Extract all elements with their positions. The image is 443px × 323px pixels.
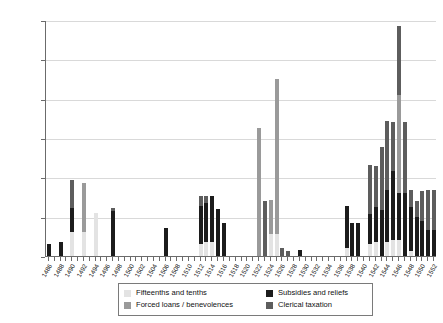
legend-label: Clerical taxation: [278, 301, 332, 309]
bar-segment: [94, 213, 98, 256]
bar-segment: [374, 166, 378, 208]
bar-segment: [82, 183, 86, 233]
bar-column: [397, 26, 401, 256]
bar-segment: [426, 190, 430, 230]
bar-column: [374, 166, 378, 256]
bar-segment: [199, 206, 203, 244]
bar-segment: [385, 190, 389, 242]
bar-segment: [380, 210, 384, 256]
bar-segment: [70, 208, 74, 232]
bar-segment: [59, 242, 63, 256]
bar-column: [210, 196, 214, 256]
legend-item-subsidies-and-reliefs: Subsidies and reliefs: [266, 289, 348, 297]
bar-column: [403, 122, 407, 256]
bar-segment: [415, 217, 419, 256]
bar-column: [269, 200, 273, 256]
legend-item-clerical-taxation: Clerical taxation: [266, 301, 332, 309]
bar-segment: [204, 203, 208, 242]
bar-column: [426, 190, 430, 256]
bar-segment: [199, 196, 203, 206]
bar-segment: [368, 165, 372, 215]
chart-root: 050000100000150000200000250000300000 148…: [0, 0, 443, 323]
bar-column: [350, 223, 354, 256]
bar-segment: [397, 193, 401, 240]
bar-column: [47, 244, 51, 256]
bar-segment: [275, 234, 279, 256]
bar-segment: [204, 196, 208, 202]
bar-column: [70, 180, 74, 256]
bar-segment: [70, 180, 74, 208]
legend-swatch-icon: [266, 302, 273, 309]
bar-column: [204, 196, 208, 256]
bar-segment: [397, 240, 401, 256]
bar-segment: [269, 200, 273, 234]
bar-column: [275, 79, 279, 256]
bar-segment: [374, 242, 378, 256]
bar-segment: [350, 223, 354, 256]
bar-segment: [380, 147, 384, 210]
plot-area: [45, 21, 436, 257]
bar-segment: [345, 206, 349, 248]
legend-label: Forced loans / benevolences: [136, 301, 233, 309]
bar-column: [199, 196, 203, 256]
bar-segment: [210, 196, 214, 242]
bar-segment: [70, 232, 74, 256]
bar-series-container: [46, 21, 436, 256]
bar-column: [257, 128, 261, 256]
bar-segment: [403, 193, 407, 256]
legend-swatch-icon: [124, 302, 131, 309]
bar-segment: [426, 230, 430, 256]
bar-segment: [164, 228, 168, 256]
bar-column: [263, 201, 267, 256]
bar-segment: [391, 171, 395, 240]
bar-segment: [216, 209, 220, 256]
bar-column: [391, 122, 395, 256]
bar-column: [368, 165, 372, 256]
bar-column: [59, 242, 63, 256]
bar-segment: [374, 207, 378, 242]
bar-segment: [391, 240, 395, 256]
legend-swatch-icon: [266, 290, 273, 297]
legend-item-forced-loans-benevolences: Forced loans / benevolences: [124, 301, 266, 309]
bar-segment: [298, 250, 302, 256]
bar-column: [432, 190, 436, 256]
legend-row: Fifteenths and tenths Subsidies and reli…: [124, 287, 367, 299]
bar-column: [385, 121, 389, 256]
bar-column: [222, 223, 226, 256]
bar-segment: [397, 95, 401, 193]
bar-segment: [222, 223, 226, 256]
bar-segment: [409, 251, 413, 256]
bar-segment: [415, 201, 419, 217]
bar-column: [356, 223, 360, 256]
bar-segment: [257, 128, 261, 256]
bar-segment: [111, 211, 115, 256]
legend-label: Fifteenths and tenths: [136, 289, 207, 297]
bar-segment: [47, 244, 51, 256]
bar-segment: [403, 122, 407, 193]
bar-segment: [409, 190, 413, 207]
bar-column: [82, 183, 86, 256]
bar-segment: [111, 208, 115, 211]
bar-segment: [286, 251, 290, 256]
bar-column: [420, 191, 424, 256]
bar-column: [345, 206, 349, 256]
bar-segment: [420, 221, 424, 256]
bar-segment: [368, 214, 372, 244]
bar-segment: [432, 190, 436, 230]
legend-label: Subsidies and reliefs: [278, 289, 348, 297]
bar-segment: [391, 122, 395, 171]
bar-segment: [420, 191, 424, 222]
bar-column: [298, 250, 302, 256]
legend-swatch-icon: [124, 290, 131, 297]
bar-column: [94, 213, 98, 256]
bar-column: [216, 209, 220, 256]
chart-legend: Fifteenths and tenths Subsidies and reli…: [118, 283, 373, 316]
bar-column: [409, 190, 413, 256]
bar-column: [164, 228, 168, 256]
bar-segment: [275, 79, 279, 234]
bar-column: [380, 147, 384, 256]
bar-segment: [385, 121, 389, 189]
bar-segment: [263, 201, 267, 256]
bar-column: [286, 251, 290, 256]
bar-segment: [204, 242, 208, 256]
